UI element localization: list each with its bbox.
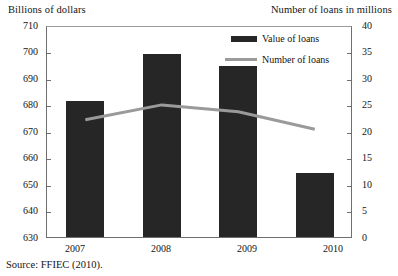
- right-axis-tick-25: 25: [362, 99, 388, 110]
- left-axis-tick-710: 710: [12, 20, 38, 31]
- left-axis-tick-700: 700: [12, 46, 38, 57]
- right-axis-tick-35: 35: [362, 46, 388, 57]
- left-tickmark-640: [47, 212, 51, 213]
- right-axis-tick-40: 40: [362, 20, 388, 31]
- legend-item-number-of-loans[interactable]: Number of loans: [225, 54, 329, 65]
- x-axis-tick-2007: 2007: [51, 243, 99, 254]
- right-axis-tick-30: 30: [362, 73, 388, 84]
- left-axis-tick-640: 640: [12, 205, 38, 216]
- right-axis-tick-20: 20: [362, 126, 388, 137]
- right-tickmark-15: [347, 159, 351, 160]
- legend-label-value-of-loans: Value of loans: [262, 33, 319, 44]
- right-axis-tick-10: 10: [362, 179, 388, 190]
- legend-line-swatch-icon: [225, 58, 257, 61]
- right-tickmark-35: [347, 53, 351, 54]
- right-axis-tick-5: 5: [362, 205, 388, 216]
- left-axis-title: Billions of dollars: [8, 4, 86, 15]
- left-tickmark-670: [47, 133, 51, 134]
- right-axis-tick-15: 15: [362, 152, 388, 163]
- right-tickmark-30: [347, 80, 351, 81]
- source-note: Source: FFIEC (2010).: [6, 259, 103, 270]
- legend-item-value-of-loans[interactable]: Value of loans: [231, 33, 319, 44]
- right-axis-tick-0: 0: [362, 232, 388, 243]
- right-tickmark-10: [347, 186, 351, 187]
- right-axis-title: Number of loans in millions: [271, 4, 392, 15]
- left-axis-tick-680: 680: [12, 99, 38, 110]
- right-tickmark-5: [347, 212, 351, 213]
- bar-2007[interactable]: [66, 101, 104, 238]
- bar-2009[interactable]: [219, 66, 257, 237]
- left-tickmark-680: [47, 106, 51, 107]
- left-axis-tick-630: 630: [12, 232, 38, 243]
- x-axis-tick-2009: 2009: [223, 243, 271, 254]
- left-tickmark-700: [47, 53, 51, 54]
- x-axis-tick-2008: 2008: [137, 243, 185, 254]
- left-tickmark-650: [47, 186, 51, 187]
- left-axis-tick-670: 670: [12, 126, 38, 137]
- chart-figure: Billions of dollars Number of loans in m…: [0, 0, 398, 276]
- left-axis-tick-650: 650: [12, 179, 38, 190]
- legend-label-number-of-loans: Number of loans: [262, 54, 329, 65]
- right-tickmark-25: [347, 106, 351, 107]
- bar-2010[interactable]: [296, 173, 334, 237]
- x-axis-tick-2010: 2010: [309, 243, 357, 254]
- right-tickmark-20: [347, 133, 351, 134]
- bar-2008[interactable]: [143, 54, 181, 237]
- left-axis-tick-660: 660: [12, 152, 38, 163]
- plot-area: Value of loans Number of loans: [46, 26, 352, 238]
- left-axis-tick-690: 690: [12, 73, 38, 84]
- legend-bar-swatch-icon: [231, 36, 257, 42]
- left-tickmark-660: [47, 159, 51, 160]
- left-tickmark-690: [47, 80, 51, 81]
